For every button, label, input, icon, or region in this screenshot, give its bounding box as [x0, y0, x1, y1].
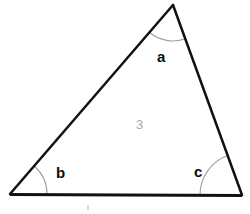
- arc-angle-c-icon: [200, 156, 228, 195]
- angle-label-c: c: [194, 164, 202, 179]
- triangle-side-right: [173, 5, 242, 195]
- interior-label-3: 3: [136, 118, 143, 131]
- arc-angle-b-icon: [34, 166, 47, 194]
- arc-angle-a-icon: [149, 32, 185, 41]
- stray-artifact-mark: [87, 205, 89, 210]
- angle-label-b: b: [56, 165, 65, 180]
- triangle-figure: a b c 3: [0, 0, 250, 214]
- triangle-side-left: [10, 5, 173, 194]
- triangle-side-base: [10, 195, 242, 196]
- triangle-drawing: [0, 0, 250, 214]
- angle-label-a: a: [157, 49, 165, 64]
